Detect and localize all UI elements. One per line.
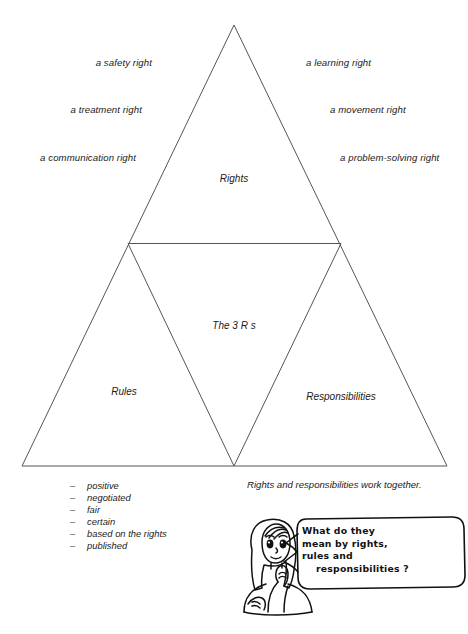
eye-highlight <box>281 541 283 543</box>
left-label-safety: a safety right <box>96 57 152 69</box>
speech-bubble-line: mean by rights, <box>302 538 454 551</box>
list-item: – negotiated <box>66 492 167 504</box>
list-item: – certain <box>66 516 167 528</box>
right-label-problem-solving: a problem-solving right <box>340 152 439 164</box>
list-item: – based on the rights <box>66 528 167 540</box>
list-item-label: positive <box>87 480 119 491</box>
sleeve-crease <box>252 606 260 608</box>
list-item: – positive <box>66 480 167 492</box>
nose <box>276 548 278 553</box>
dash-marker: – <box>70 504 75 516</box>
dash-marker: – <box>70 480 75 492</box>
list-item: – fair <box>66 504 167 516</box>
dash-marker: – <box>70 492 75 504</box>
dash-marker: – <box>70 540 75 552</box>
list-item-label: certain <box>87 516 115 527</box>
speech-bubble-text: What do they mean by rights, rules and r… <box>302 525 454 575</box>
left-label-treatment: a treatment right <box>70 104 142 116</box>
list-item-label: fair <box>87 504 100 515</box>
outer-triangle <box>22 25 447 466</box>
zone-label-three-rs: The 3 R s <box>212 320 255 331</box>
arm <box>284 586 288 612</box>
arm <box>268 582 278 612</box>
list-item-label: published <box>87 540 127 551</box>
zone-label-rights: Rights <box>220 173 248 184</box>
list-item: – published <box>66 540 167 552</box>
body-outline <box>244 612 312 615</box>
list-item-label: based on the rights <box>87 528 167 539</box>
dash-marker: – <box>70 528 75 540</box>
right-label-learning: a learning right <box>306 57 371 69</box>
zone-label-rules: Rules <box>111 386 137 397</box>
mouth <box>271 557 281 559</box>
list-item-label: negotiated <box>87 492 131 503</box>
eye-highlight <box>268 541 270 543</box>
finger <box>279 573 286 575</box>
inner-inverted-triangle <box>128 244 341 467</box>
speech-bubble-line: responsibilities ? <box>302 563 454 576</box>
illustration-group: What do they mean by rights, rules and r… <box>222 512 468 624</box>
rules-attribute-list: – positive – negotiated – fair – certain… <box>66 480 167 553</box>
speech-bubble-line: rules and <box>302 550 454 563</box>
eye-right <box>280 540 287 549</box>
dash-marker: – <box>70 516 75 528</box>
eyebrow-right <box>279 536 287 538</box>
worksheet-page: a safety right a treatment right a commu… <box>0 0 468 634</box>
finger <box>279 577 286 579</box>
zone-label-responsibilities: Responsibilities <box>306 391 375 402</box>
eye-left <box>267 540 274 549</box>
fringe-strand <box>269 529 286 538</box>
sleeve-crease <box>252 602 260 604</box>
sleeve <box>248 597 265 610</box>
right-label-movement: a movement right <box>330 104 406 116</box>
caption-rights-responsibilities: Rights and responsibilities work togethe… <box>247 479 422 490</box>
speech-bubble-line: What do they <box>302 525 454 538</box>
hair-outline <box>251 519 296 590</box>
left-label-communication: a communication right <box>40 152 136 164</box>
